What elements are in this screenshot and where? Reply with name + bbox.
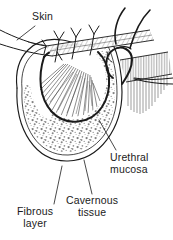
label-urethral-mucosa: Urethral mucosa [110, 152, 149, 175]
leader-cavernous [84, 160, 92, 194]
label-fibrous-layer: Fibrous layer [17, 206, 53, 229]
mucosal-flap [120, 52, 173, 114]
label-skin: Skin [32, 11, 53, 23]
suture-knot [42, 40, 46, 54]
leader-skin [17, 26, 35, 40]
label-cavernous-tissue: Cavernous tissue [66, 195, 118, 218]
leader-fibrous [54, 166, 62, 204]
illustration-page: Skin Urethral mucosa Cavernous tissue Fi… [0, 0, 173, 240]
